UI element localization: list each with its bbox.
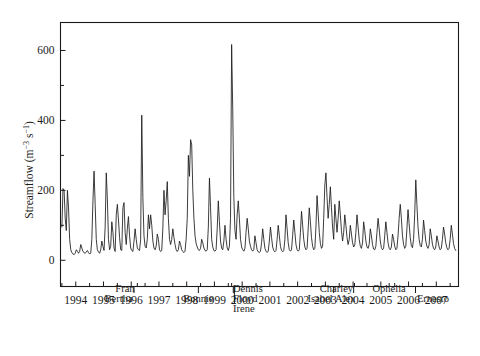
storm-label-isabel: Isabel [308, 293, 333, 304]
y-tick-label: 200 [37, 184, 55, 196]
x-tick-label: 2005 [369, 294, 392, 306]
storm-label-bertha: Bertha [105, 293, 133, 304]
storm-label-irene: Irene [233, 303, 255, 314]
y-tick-label: 400 [37, 114, 55, 126]
storm-label-ophelia: Ophelia [373, 283, 407, 294]
storm-label-bonnie: Bonnie [183, 293, 214, 304]
svg-text:Streamflow (m−3 s−1): Streamflow (m−3 s−1) [22, 121, 36, 219]
streamflow-figure: 0200400600 19941995199619971998199920002… [0, 0, 480, 356]
x-tick-label: 2001 [258, 294, 281, 306]
y-axis-ticks [61, 50, 66, 260]
storm-label-alex: Alex [335, 293, 356, 304]
storm-label-fran: Fran [115, 283, 135, 294]
x-tick-label: 1997 [147, 294, 170, 306]
y-tick-label: 0 [49, 254, 55, 266]
x-tick-label: 2002 [286, 294, 309, 306]
streamflow-chart: 0200400600 19941995199619971998199920002… [0, 0, 480, 356]
y-axis-tick-labels: 0200400600 [37, 44, 55, 266]
x-tick-label: 1994 [64, 294, 87, 306]
streamflow-series-line [62, 45, 456, 255]
y-tick-label: 600 [37, 44, 55, 56]
y-axis-title: Streamflow (m−3 s−1) [22, 121, 36, 219]
storm-label-ernesto: Ernesto [417, 293, 449, 304]
